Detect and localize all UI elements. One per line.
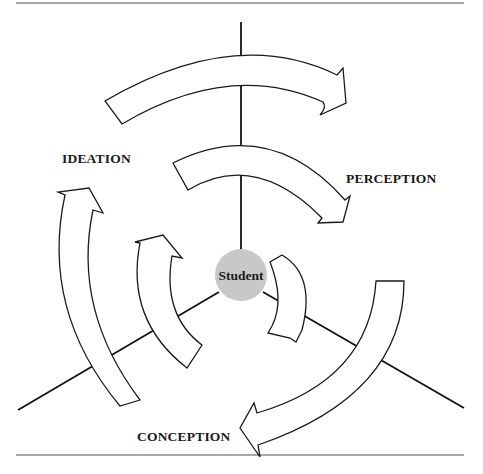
label-ideation: IDEATION — [62, 151, 131, 166]
outer-arrow-conception-to-ideation — [58, 188, 140, 406]
label-perception: PERCEPTION — [346, 171, 437, 186]
inner-arrow-conception-to-ideation — [135, 235, 202, 368]
outer-arrow-ideation-to-perception — [105, 55, 346, 124]
label-conception: CONCEPTION — [137, 429, 231, 444]
inner-arrow-ideation-to-perception — [173, 146, 350, 223]
student-label: Student — [218, 268, 264, 283]
outer-arrow-perception-to-conception — [240, 281, 404, 457]
cycle-diagram: Student IDEATION PERCEPTION CONCEPTION — [0, 0, 483, 474]
